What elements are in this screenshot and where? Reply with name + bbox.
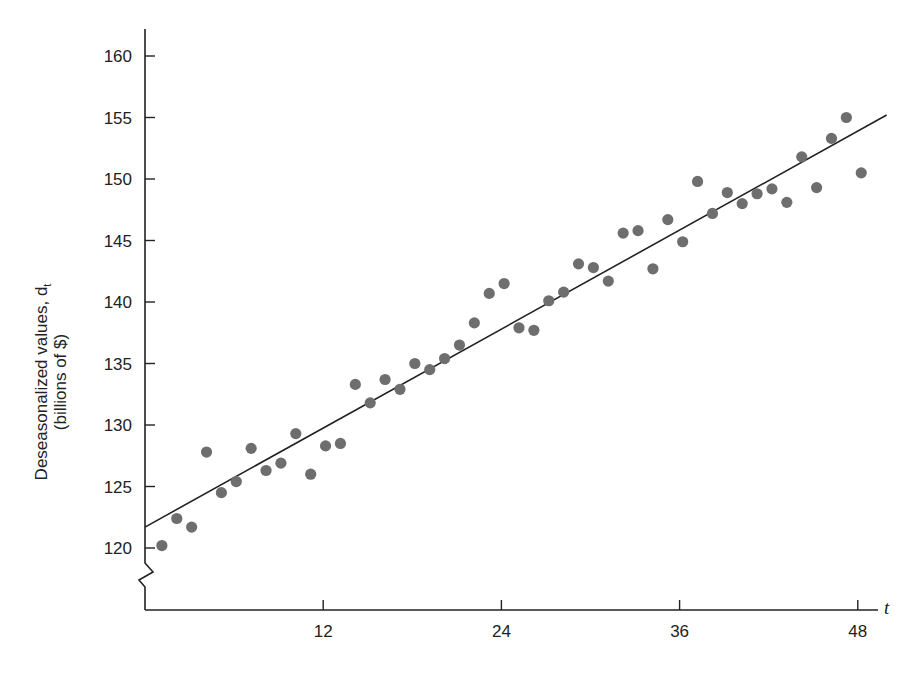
data-point — [677, 236, 688, 247]
data-point — [454, 339, 465, 350]
data-point — [379, 374, 390, 385]
x-tick-label: 12 — [314, 622, 333, 641]
y-tick-label: 140 — [104, 293, 132, 312]
data-point — [528, 325, 539, 336]
data-point — [632, 225, 643, 236]
data-point — [513, 322, 524, 333]
data-point — [543, 295, 554, 306]
data-point — [216, 487, 227, 498]
data-point — [484, 288, 495, 299]
data-point — [841, 112, 852, 123]
data-point — [320, 440, 331, 451]
data-point — [856, 167, 867, 178]
data-point — [796, 151, 807, 162]
data-point — [707, 208, 718, 219]
y-tick-label: 120 — [104, 539, 132, 558]
data-point — [275, 458, 286, 469]
x-axis: 12243648 — [145, 600, 878, 641]
data-point — [781, 197, 792, 208]
data-point — [751, 188, 762, 199]
data-point — [156, 540, 167, 551]
y-axis-title: Deseasonalized values, dt (billions of $… — [32, 284, 70, 481]
y-axis-title-subscript: t — [41, 284, 53, 287]
y-tick-label: 145 — [104, 232, 132, 251]
data-point — [350, 379, 361, 390]
data-point — [231, 476, 242, 487]
y-tick-label: 135 — [104, 355, 132, 374]
data-point — [439, 353, 450, 364]
data-points — [156, 112, 867, 551]
data-point — [394, 384, 405, 395]
y-tick-label: 155 — [104, 109, 132, 128]
y-tick-label: 160 — [104, 47, 132, 66]
data-point — [603, 275, 614, 286]
data-point — [469, 317, 480, 328]
y-axis-title-line1: Deseasonalized values, dt — [32, 284, 53, 481]
data-point — [722, 187, 733, 198]
data-point — [186, 521, 197, 532]
y-tick-label: 150 — [104, 170, 132, 189]
x-tick-label: 24 — [492, 622, 511, 641]
data-point — [246, 443, 257, 454]
scatter-chart: 120125130135140145150155160 12243648 t D… — [0, 0, 917, 677]
y-tick-label: 130 — [104, 416, 132, 435]
data-point — [647, 263, 658, 274]
data-point — [424, 364, 435, 375]
data-point — [662, 214, 673, 225]
data-point — [573, 258, 584, 269]
data-point — [305, 469, 316, 480]
data-point — [558, 287, 569, 298]
data-point — [365, 397, 376, 408]
trend-line-path — [145, 115, 887, 527]
data-point — [171, 513, 182, 524]
data-point — [409, 358, 420, 369]
data-point — [335, 438, 346, 449]
data-point — [588, 262, 599, 273]
data-point — [766, 183, 777, 194]
y-axis: 120125130135140145150155160 — [104, 29, 155, 610]
data-point — [499, 278, 510, 289]
data-point — [811, 182, 822, 193]
x-axis-label: t — [884, 597, 890, 618]
data-point — [826, 133, 837, 144]
data-point — [692, 176, 703, 187]
trend-line — [145, 115, 887, 527]
data-point — [618, 228, 629, 239]
data-point — [201, 446, 212, 457]
data-point — [737, 198, 748, 209]
y-axis-title-line2: (billions of $) — [51, 334, 70, 430]
data-point — [290, 428, 301, 439]
y-axis-line — [139, 29, 153, 610]
data-point — [260, 465, 271, 476]
x-tick-label: 36 — [670, 622, 689, 641]
x-tick-label: 48 — [848, 622, 867, 641]
y-tick-label: 125 — [104, 478, 132, 497]
